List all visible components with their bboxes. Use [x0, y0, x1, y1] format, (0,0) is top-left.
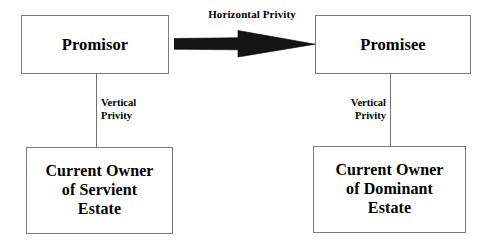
node-current-owner-dominant-estate: Current Owner of Dominant Estate: [313, 146, 466, 233]
edge-label-vertical-privity-left: Vertical Privity: [101, 96, 136, 123]
node-current-owner-servient-estate: Current Owner of Servient Estate: [26, 147, 173, 234]
edge-label-horizontal-privity: Horizontal Privity: [186, 8, 318, 20]
block-arrow-right-icon: [174, 28, 318, 60]
node-servient-label: Current Owner of Servient Estate: [45, 162, 153, 219]
connector-line-vertical-left: [96, 74, 97, 147]
node-dominant-label: Current Owner of Dominant Estate: [335, 161, 443, 218]
node-promisor-label: Promisor: [62, 35, 128, 54]
node-promisor: Promisor: [21, 15, 169, 74]
node-promisee-label: Promisee: [360, 35, 426, 54]
node-promisee: Promisee: [315, 15, 471, 74]
edge-label-vertical-privity-right: Vertical Privity: [337, 96, 386, 123]
connector-line-vertical-right: [390, 74, 391, 146]
privity-diagram: Promisor Promisee Current Owner of Servi…: [0, 0, 488, 246]
